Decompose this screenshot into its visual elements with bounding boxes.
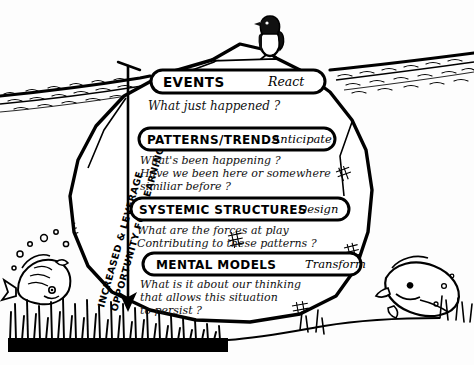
level-systemic-structures-action: Design [297, 202, 338, 216]
level-patterns-trends-question-2: similiar before ? [140, 180, 231, 193]
iceberg-diagram-canvas: INCREASED & LEVERAGE OPPORTUNITY FOR LEA… [0, 0, 474, 365]
fish-left-icon [2, 230, 70, 305]
level-patterns-trends-question-1: Have we been here or somewhere [139, 167, 331, 180]
iceberg-model-figure: INCREASED & LEVERAGE OPPORTUNITY FOR LEA… [0, 0, 474, 365]
level-mental-models-action: Transform [305, 257, 366, 271]
level-patterns-trends-action: Anticipate [271, 132, 332, 146]
level-mental-models-title: MENTAL MODELS [156, 258, 276, 272]
level-patterns-trends-title: PATTERNS/TRENDS [147, 133, 280, 147]
level-systemic-structures-question-0: What are the forces at play [137, 224, 290, 237]
level-events-action: React [267, 74, 305, 89]
level-events-question-0: What just happened ? [148, 99, 281, 113]
level-mental-models-question-1: that allows this situation [140, 291, 278, 304]
level-events-title: EVENTS [163, 74, 225, 90]
level-systemic-structures-title: SYSTEMIC STRUCTURES [139, 203, 307, 217]
level-mental-models-question-0: What is it about our thinking [140, 278, 301, 291]
level-systemic-structures-question-1: Contributing to these patterns ? [137, 237, 317, 250]
level-patterns-trends-question-0: What's been happening ? [140, 154, 281, 167]
level-mental-models-question-2: to persist ? [140, 304, 202, 317]
